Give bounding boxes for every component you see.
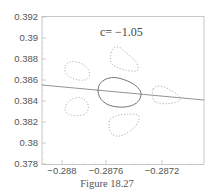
y-axis-ticks: [42, 17, 46, 164]
y-tick-label: 0.38: [2, 138, 38, 148]
y-tick-label: 0.378: [2, 159, 38, 169]
island-right: [152, 86, 180, 104]
island-upper-center: [110, 47, 138, 71]
y-tick-label: 0.382: [2, 117, 38, 127]
y-tick-label: 0.386: [2, 75, 38, 85]
y-tick-label: 0.388: [2, 54, 38, 64]
series-line: [42, 85, 204, 100]
series-islands: [65, 47, 180, 136]
parameter-annotation: c= −1.05: [100, 25, 143, 40]
y-tick-label: 0.39: [2, 33, 38, 43]
x-tick-label: −0.2872: [137, 166, 187, 176]
figure-caption: Figure 18.27: [0, 178, 214, 189]
x-tick-label: −0.2876: [81, 166, 131, 176]
y-tick-label: 0.392: [2, 12, 38, 22]
island-lower-left: [65, 98, 88, 116]
y-tick-label: 0.384: [2, 96, 38, 106]
x-axis-ticks: [50, 160, 190, 165]
island-lower-center: [109, 114, 139, 136]
x-tick-label: −0.288: [37, 166, 87, 176]
island-upper-left: [65, 62, 89, 81]
